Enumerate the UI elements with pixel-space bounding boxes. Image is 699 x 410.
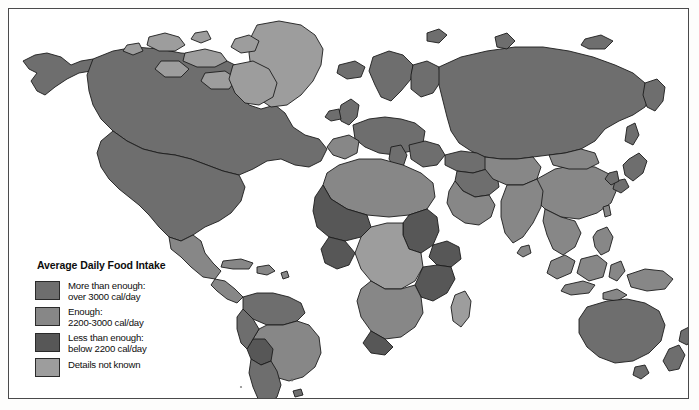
legend-label-details-not-known: Details not known xyxy=(68,357,140,370)
map-legend: Average Daily Food Intake More than enou… xyxy=(35,259,213,380)
scan-speck-b xyxy=(240,386,242,388)
legend-swatch-more-than-enough xyxy=(35,281,60,300)
legend-label-line1: Details not known xyxy=(68,359,140,370)
legend-item-details-not-known: Details not known xyxy=(35,357,213,377)
legend-label-line1: More than enough: xyxy=(68,280,145,291)
region-taiwan xyxy=(603,205,611,217)
legend-swatch-details-not-known xyxy=(35,358,60,377)
scan-speck-a xyxy=(291,379,294,382)
legend-label-line2: over 3000 cal/day xyxy=(68,291,145,302)
legend-item-more-than-enough: More than enough: over 3000 cal/day xyxy=(35,280,213,303)
food-intake-map-figure: Average Daily Food Intake More than enou… xyxy=(0,0,699,410)
legend-label-more-than-enough: More than enough: over 3000 cal/day xyxy=(68,280,145,303)
legend-label-line2: below 2200 cal/day xyxy=(68,343,147,354)
legend-item-enough: Enough: 2200-3000 cal/day xyxy=(35,306,213,329)
legend-title: Average Daily Food Intake xyxy=(37,259,213,271)
region-lesser-antilles xyxy=(281,271,289,279)
map-frame: Average Daily Food Intake More than enou… xyxy=(8,8,689,399)
legend-label-less-than-enough: Less than enough: below 2200 cal/day xyxy=(68,332,147,355)
legend-label-line1: Less than enough: xyxy=(68,332,147,343)
legend-item-less-than-enough: Less than enough: below 2200 cal/day xyxy=(35,332,213,355)
legend-label-line1: Enough: xyxy=(68,306,144,317)
legend-swatch-less-than-enough xyxy=(35,333,60,352)
region-falklands xyxy=(293,389,303,397)
legend-label-line2: 2200-3000 cal/day xyxy=(68,317,144,328)
legend-label-enough: Enough: 2200-3000 cal/day xyxy=(68,306,144,329)
legend-swatch-enough xyxy=(35,307,60,326)
